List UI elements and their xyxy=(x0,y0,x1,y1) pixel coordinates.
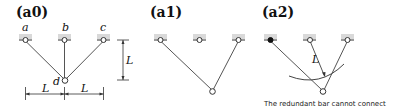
joint-2 xyxy=(308,38,313,43)
panel-a0: (a0) a b c d L xyxy=(16,4,133,100)
panel-caption: The redundant bar cannot connect xyxy=(263,100,386,108)
bar-right xyxy=(213,41,239,90)
joint-3 xyxy=(345,38,350,43)
dimension-vertical: L xyxy=(117,40,133,80)
joint-a xyxy=(23,38,28,43)
panel-title-a2: (a2) xyxy=(262,4,294,20)
bar-right xyxy=(324,41,348,90)
dimension-label-vertical: L xyxy=(125,54,133,67)
panel-a1: (a1) xyxy=(150,4,245,94)
arc-radius-label: L xyxy=(311,53,319,66)
joint-c xyxy=(101,38,106,43)
dimension-label-right: L xyxy=(80,82,88,95)
support-label-a: a xyxy=(22,21,29,34)
support-label-b: b xyxy=(62,21,69,34)
panel-title-a1: (a1) xyxy=(150,4,182,20)
joint-fixed xyxy=(268,38,273,43)
radius-arrowhead xyxy=(322,72,326,77)
joint-3 xyxy=(236,38,241,43)
joint-2 xyxy=(197,38,202,43)
dimension-label-left: L xyxy=(41,82,49,95)
joint-free xyxy=(210,89,216,95)
joint-b xyxy=(62,38,67,43)
joint-free xyxy=(320,89,326,95)
dimension-horizontal: L L xyxy=(26,82,104,100)
joint-d xyxy=(62,78,68,84)
node-label-d: d xyxy=(53,75,60,88)
bar-left xyxy=(161,41,213,90)
panel-a2: (a2) L The redundant bar cannot connect xyxy=(262,4,386,108)
joint-1 xyxy=(158,38,163,43)
panel-title-a0: (a0) xyxy=(16,4,48,20)
bar-cd xyxy=(66,41,104,79)
linkage-diagram: (a0) a b c d L xyxy=(0,0,398,111)
support-label-c: c xyxy=(100,21,106,34)
